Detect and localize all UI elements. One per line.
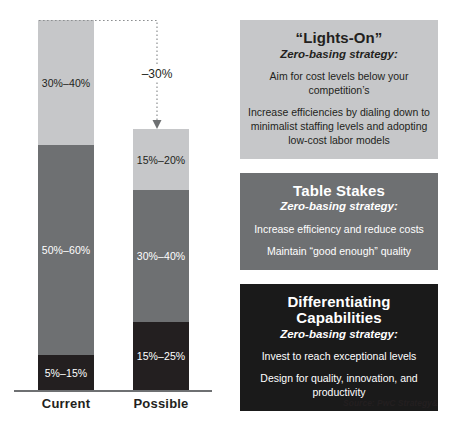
panel-lights-on: “Lights-On” Zero-basing strategy: Aim fo…	[240, 20, 438, 159]
bar-possible-segment-lights-on-label: 15%–20%	[137, 154, 186, 166]
panel-differentiating-capabilities-line-1: Invest to reach exceptional levels	[248, 350, 430, 364]
panel-table-stakes: Table Stakes Zero-basing strategy: Incre…	[240, 173, 438, 270]
panel-lights-on-title: “Lights-On”	[248, 30, 430, 47]
panel-lights-on-line-1: Aim for cost levels below your competiti…	[248, 70, 430, 98]
panel-differentiating-capabilities-subtitle: Zero-basing strategy:	[248, 328, 430, 342]
bar-current-segment-table-stakes: 50%–60%	[38, 145, 94, 355]
bar-possible: 15%–20% 30%–40% 15%–25%	[133, 129, 189, 390]
bar-possible-segment-table-stakes-label: 30%–40%	[137, 250, 186, 262]
panel-differentiating-capabilities-title: Differentiating Capabilities	[248, 294, 430, 327]
panel-table-stakes-subtitle: Zero-basing strategy:	[248, 200, 430, 214]
bar-possible-segment-table-stakes: 30%–40%	[133, 190, 189, 322]
panel-table-stakes-line-1: Increase efficiency and reduce costs	[248, 223, 430, 237]
panel-table-stakes-title: Table Stakes	[248, 183, 430, 200]
axis-label-possible: Possible	[116, 396, 206, 411]
bar-current: 30%–40% 50%–60% 5%–15%	[38, 20, 94, 390]
delta-label: –30%	[112, 66, 202, 82]
delta-annotation-arrow	[0, 0, 226, 428]
source-note: Source: PwC Strategy&	[238, 398, 438, 408]
axis-label-current: Current	[21, 396, 111, 411]
bar-current-segment-differentiating: 5%–15%	[38, 355, 94, 390]
strategy-panels: “Lights-On” Zero-basing strategy: Aim fo…	[240, 20, 438, 425]
panel-differentiating-capabilities: Differentiating Capabilities Zero-basing…	[240, 284, 438, 411]
bar-current-segment-lights-on-label: 30%–40%	[42, 77, 91, 89]
panel-lights-on-line-2: Increase efficiencies by dialing down to…	[248, 106, 430, 148]
panel-table-stakes-line-2: Maintain “good enough” quality	[248, 245, 430, 259]
stacked-bar-chart: 30%–40% 50%–60% 5%–15% 15%–20% 30%–40% 1…	[0, 0, 226, 428]
x-axis-line	[14, 390, 212, 392]
bar-possible-segment-differentiating: 15%–25%	[133, 322, 189, 390]
bar-possible-segment-differentiating-label: 15%–25%	[137, 350, 186, 362]
bar-current-segment-table-stakes-label: 50%–60%	[42, 244, 91, 256]
bar-possible-segment-lights-on: 15%–20%	[133, 129, 189, 190]
bar-current-segment-differentiating-label: 5%–15%	[45, 367, 88, 379]
bar-current-segment-lights-on: 30%–40%	[38, 20, 94, 145]
panel-differentiating-capabilities-line-2: Design for quality, innovation, and prod…	[248, 372, 430, 400]
panel-lights-on-subtitle: Zero-basing strategy:	[248, 48, 430, 62]
